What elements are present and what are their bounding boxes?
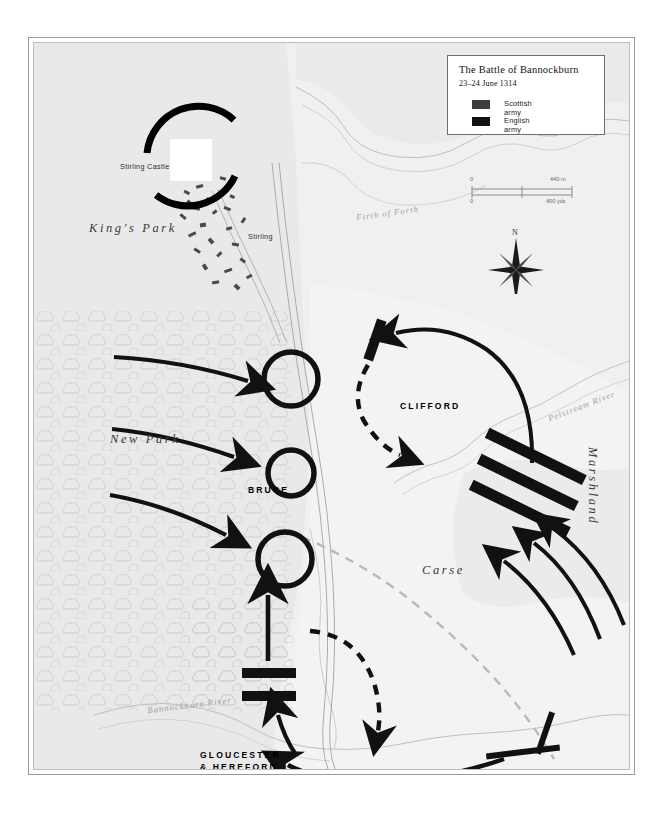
legend-date: 23–24 June 1314: [459, 79, 517, 88]
arrow-edward-advance: [288, 759, 504, 769]
compass-rose-icon: [487, 228, 545, 294]
compass-rose: N: [487, 228, 545, 294]
battle-map-canvas: King's Park New Park Carse Marshland Fir…: [34, 43, 629, 769]
compass-north-label: N: [512, 228, 518, 237]
arrow-english-attack-2: [534, 543, 600, 639]
movement-arrows-layer: [34, 43, 629, 769]
terrain-label-carse: Carse: [422, 563, 465, 578]
arrow-south-approach: [278, 715, 296, 755]
place-label-stirling-castle: Stirling Castle: [120, 162, 170, 171]
legend-swatch-english-army: [472, 117, 490, 126]
arrow-clifford-retreat: [358, 365, 400, 455]
scale-imperial-zero: 0: [470, 198, 473, 204]
place-label-stirling: Stirling: [248, 232, 273, 241]
legend-swatch-scottish-army: [472, 100, 490, 109]
scale-metric-max: 440 m: [550, 176, 566, 182]
terrain-label-kings-park: King's Park: [89, 221, 177, 236]
arrow-clifford-advance: [396, 329, 532, 463]
legend-label-scottish-army: Scottish army: [504, 99, 532, 117]
map-legend: The Battle of Bannockburn 23–24 June 131…: [447, 55, 605, 135]
terrain-label-new-park: New Park: [110, 432, 180, 447]
arrow-scots-south: [110, 495, 226, 535]
unit-label-clifford: CLIFFORD: [400, 401, 460, 411]
scale-bar-graphic: [466, 176, 586, 210]
legend-title: The Battle of Bannockburn: [459, 64, 579, 75]
scale-imperial-max: 400 yds: [546, 198, 566, 204]
arrow-scots-north: [114, 357, 248, 381]
legend-label-english-army: English army: [504, 116, 530, 134]
map-scale-bar: 0 440 m 0 400 yds: [466, 176, 586, 210]
arrow-gloucester-retreat: [310, 631, 379, 731]
unit-label-gloucester: GLOUCESTER: [200, 750, 281, 760]
scale-metric-zero: 0: [470, 176, 473, 182]
map-page: King's Park New Park Carse Marshland Fir…: [0, 0, 661, 813]
unit-label-bruce: BRUCE: [248, 485, 289, 495]
terrain-label-marshland: Marshland: [585, 447, 600, 525]
unit-label-hereford: & HEREFORD: [200, 762, 278, 769]
